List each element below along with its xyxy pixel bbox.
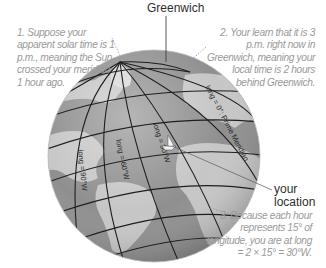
your-location-label: your location <box>274 183 326 209</box>
greenwich-label: Greenwich <box>147 2 204 15</box>
note-step-1: 1. Suppose your apparent solar time is 1… <box>17 27 117 89</box>
note-step-3: 3. Because each hour represents 15° of l… <box>200 210 312 260</box>
note-step-2: 2. Your learn that it is 3 p.m. right no… <box>205 27 315 89</box>
